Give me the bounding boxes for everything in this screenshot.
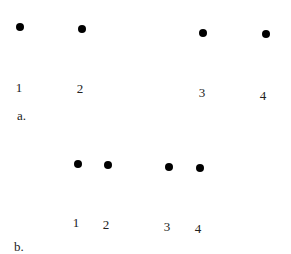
point-label: 1	[16, 81, 23, 94]
point-dot	[104, 161, 112, 169]
panel-caption: a.	[17, 109, 26, 122]
point-label: 2	[103, 218, 110, 231]
point-label: 3	[199, 86, 206, 99]
panel-caption: b.	[14, 240, 24, 253]
point-label: 2	[77, 82, 84, 95]
point-label: 4	[195, 222, 202, 235]
point-label: 1	[73, 216, 80, 229]
point-label: 3	[164, 220, 171, 233]
point-dot	[78, 25, 86, 33]
point-dot	[199, 29, 207, 37]
point-dot	[262, 30, 270, 38]
point-dot	[196, 164, 204, 172]
point-dot	[74, 160, 82, 168]
point-label: 4	[260, 89, 267, 102]
point-dot	[16, 23, 24, 31]
point-dot	[165, 163, 173, 171]
